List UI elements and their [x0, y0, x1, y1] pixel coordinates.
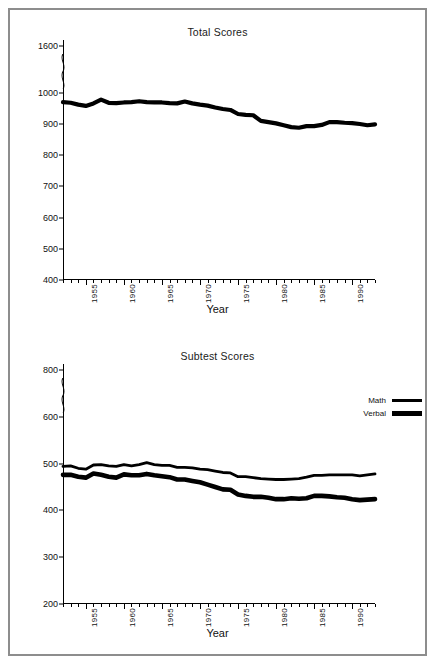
- x-axis-tick-mark: [185, 604, 186, 607]
- x-axis-tick-mark: [185, 280, 186, 283]
- x-axis-tick-label: 1955: [90, 608, 99, 627]
- x-axis-tick-label: 1980: [280, 608, 289, 627]
- x-axis-tick-mark: [284, 280, 285, 283]
- x-axis-tick-mark: [291, 280, 292, 283]
- x-axis-major-tick-mark: [124, 280, 125, 285]
- x-axis-major-tick-mark: [200, 604, 201, 609]
- x-axis-tick-label: 1960: [128, 608, 137, 627]
- y-axis-tick-label: 800: [43, 150, 58, 160]
- plot-area-total-scores: 4005006007008009001000160019551960196519…: [63, 40, 375, 280]
- x-axis-major-tick-mark: [314, 280, 315, 285]
- y-axis-tick-mark: [59, 510, 63, 511]
- y-axis-tick-label: 300: [43, 552, 58, 562]
- x-axis-major-tick-mark: [162, 280, 163, 285]
- chart-title-subtest-scores: Subtest Scores: [10, 350, 425, 362]
- y-axis-tick-label: 400: [43, 275, 58, 285]
- x-axis-tick-label: 1985: [318, 608, 327, 627]
- x-axis-major-tick-mark: [352, 280, 353, 285]
- x-axis-tick-mark: [71, 604, 72, 607]
- x-axis-tick-mark: [192, 280, 193, 283]
- x-axis-major-tick-mark: [276, 280, 277, 285]
- y-axis-tick-mark: [59, 217, 63, 218]
- x-axis-tick-mark: [375, 604, 376, 607]
- y-axis-tick-mark: [59, 92, 63, 93]
- x-axis-tick-mark: [116, 280, 117, 283]
- x-axis-major-tick-mark: [238, 604, 239, 609]
- x-axis-tick-mark: [147, 280, 148, 283]
- y-axis-tick-label: 900: [43, 119, 58, 129]
- y-axis-tick-label: 800: [43, 365, 58, 375]
- x-axis-tick-mark: [101, 280, 102, 283]
- x-axis-tick-mark: [337, 280, 338, 283]
- x-axis-tick-mark: [268, 604, 269, 607]
- y-axis-tick-mark: [59, 155, 63, 156]
- figure-frame: Total Scores 400500600700800900100016001…: [8, 8, 427, 656]
- x-axis-tick-label: 1990: [356, 608, 365, 627]
- y-axis-tick-label: 600: [43, 213, 58, 223]
- plot-area-subtest-scores: 2003004005006008001955196019651970197519…: [63, 364, 375, 604]
- x-axis-tick-mark: [177, 604, 178, 607]
- data-line-total: [63, 100, 375, 128]
- y-axis-tick-label: 700: [43, 181, 58, 191]
- x-axis-major-tick-mark: [200, 280, 201, 285]
- y-axis-tick-mark: [59, 557, 63, 558]
- x-axis-tick-mark: [170, 280, 171, 283]
- data-line-verbal: [63, 473, 375, 500]
- x-axis-tick-label: 1965: [166, 608, 175, 627]
- x-axis-tick-mark: [360, 604, 361, 607]
- x-axis-tick-label: 1970: [204, 284, 213, 303]
- x-axis-tick-mark: [170, 604, 171, 607]
- x-axis-tick-mark: [329, 604, 330, 607]
- x-axis-tick-mark: [78, 604, 79, 607]
- x-axis-label-subtest: Year: [10, 627, 425, 639]
- x-axis-tick-mark: [291, 604, 292, 607]
- x-axis-tick-mark: [93, 280, 94, 283]
- x-axis-major-tick-mark: [162, 604, 163, 609]
- x-axis-tick-mark: [299, 280, 300, 283]
- x-axis-tick-mark: [322, 604, 323, 607]
- x-axis-tick-label: 1975: [242, 284, 251, 303]
- x-axis-tick-mark: [223, 604, 224, 607]
- x-axis-tick-mark: [192, 604, 193, 607]
- y-axis-tick-label: 400: [43, 505, 58, 515]
- x-axis-tick-mark: [253, 604, 254, 607]
- x-axis-tick-mark: [208, 280, 209, 283]
- x-axis-tick-mark: [253, 280, 254, 283]
- x-axis-tick-mark: [147, 604, 148, 607]
- x-axis-tick-mark: [261, 604, 262, 607]
- x-axis-tick-mark: [375, 280, 376, 283]
- x-axis-tick-mark: [71, 280, 72, 283]
- x-axis-tick-mark: [93, 604, 94, 607]
- x-axis-tick-label: 1980: [280, 284, 289, 303]
- x-axis-tick-mark: [307, 280, 308, 283]
- x-axis-tick-mark: [131, 604, 132, 607]
- x-axis-major-tick-mark: [124, 604, 125, 609]
- x-axis-tick-label: 1955: [90, 284, 99, 303]
- x-axis-major-tick-mark: [86, 604, 87, 609]
- x-axis-tick-mark: [230, 604, 231, 607]
- x-axis-tick-mark: [345, 280, 346, 283]
- x-axis-tick-mark: [139, 280, 140, 283]
- chart-title-total-scores: Total Scores: [10, 26, 425, 38]
- x-axis-tick-mark: [177, 280, 178, 283]
- x-axis-tick-mark: [208, 604, 209, 607]
- y-axis-tick-label: 500: [43, 459, 58, 469]
- x-axis-tick-mark: [322, 280, 323, 283]
- x-axis-tick-mark: [268, 280, 269, 283]
- y-axis-tick-mark: [59, 416, 63, 417]
- x-axis-major-tick-mark: [86, 280, 87, 285]
- x-axis-tick-mark: [63, 280, 64, 283]
- y-axis-tick-mark: [59, 248, 63, 249]
- series-line-total: [63, 40, 375, 280]
- x-axis-major-tick-mark: [276, 604, 277, 609]
- x-axis-tick-label: 1965: [166, 284, 175, 303]
- chart-panel-total-scores: Total Scores 400500600700800900100016001…: [10, 12, 425, 330]
- x-axis-tick-label: 1960: [128, 284, 137, 303]
- x-axis-tick-mark: [299, 604, 300, 607]
- y-axis-tick-label: 600: [43, 412, 58, 422]
- chart-panel-subtest-scores: Subtest Scores Math Verbal 2003004005006…: [10, 336, 425, 654]
- x-axis-tick-mark: [329, 280, 330, 283]
- y-axis-tick-mark: [59, 186, 63, 187]
- y-axis-tick-label: 1600: [38, 41, 58, 51]
- x-axis-tick-mark: [246, 604, 247, 607]
